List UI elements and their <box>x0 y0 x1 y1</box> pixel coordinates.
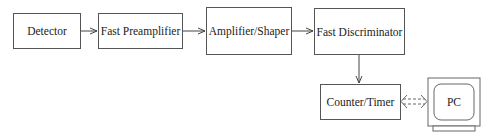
block-label: Fast Discriminator <box>317 26 403 38</box>
block-label: Fast Preamplifier <box>101 25 181 37</box>
block-label: Amplifier/Shaper <box>209 25 289 37</box>
block-label: Detector <box>27 25 67 37</box>
block-amplifier-shaper: Amplifier/Shaper <box>206 7 292 55</box>
block-counter-timer: Counter/Timer <box>320 84 401 120</box>
block-detector: Detector <box>13 13 81 49</box>
block-label: PC <box>447 96 461 108</box>
block-fast-discriminator: Fast Discriminator <box>314 8 405 55</box>
block-pc: PC <box>436 86 472 118</box>
arrow-counter-pc-bidirectional <box>401 95 427 108</box>
block-fast-preamplifier: Fast Preamplifier <box>98 13 183 49</box>
block-label: Counter/Timer <box>327 96 395 108</box>
